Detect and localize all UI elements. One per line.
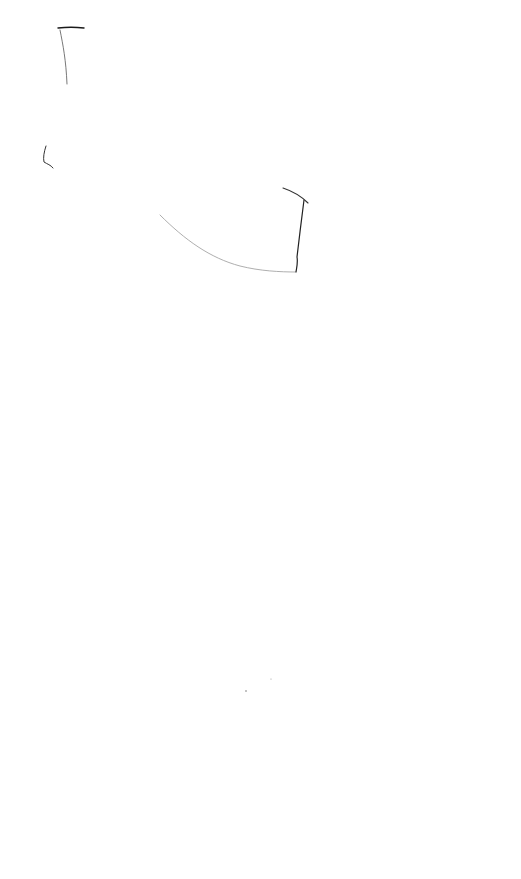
- ink-speck: [270, 678, 271, 679]
- left-squiggle-stroke: [44, 146, 53, 168]
- sketch-drawing: [0, 0, 521, 879]
- sketch-canvas: [0, 0, 521, 879]
- ink-speck: [245, 690, 247, 692]
- right-corner-stroke: [296, 200, 304, 272]
- curved-base-stroke: [160, 215, 296, 272]
- top-left-vertical-stroke: [60, 30, 67, 84]
- top-left-bracket-stroke: [58, 27, 84, 28]
